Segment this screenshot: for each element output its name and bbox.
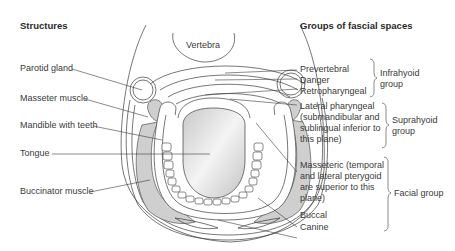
structure-mandible-with-teeth: Mandible with teeth [20, 120, 98, 131]
fascial-spaces-heading: Groups of fascial spaces [300, 20, 412, 31]
parotid-gland-left [130, 77, 156, 103]
structure-parotid-gland: Parotid gland [20, 63, 73, 74]
structure-masseter-muscle: Masseter muscle [20, 93, 88, 104]
structure-tongue: Tongue [20, 148, 50, 159]
space-buccal: Buccal [300, 210, 327, 221]
space-canine: Canine [300, 222, 329, 233]
structure-buccinator-muscle: Buccinator muscle [20, 186, 94, 197]
space-retropharyngeal: Retropharyngeal [300, 86, 367, 97]
space-danger: Danger [300, 75, 330, 86]
group-infrahyoid: Infrahyoid group [380, 68, 420, 90]
tongue [183, 108, 245, 198]
space-prevertebral: Prevertebral [300, 64, 349, 75]
group-facial: Facial group [394, 188, 444, 199]
space-lateral-pharyngeal: Lateral pharyngeal (submandibular and su… [300, 101, 381, 145]
structures-heading: Structures [20, 20, 68, 31]
space-masseteric: Masseteric (temporal and lateral pterygo… [300, 160, 384, 204]
bracket-infrahyoid [370, 59, 377, 97]
bracket-suprahyoid [382, 103, 389, 148]
bracket-facial [384, 157, 391, 231]
group-suprahyoid: Suprahyoid group [392, 115, 438, 137]
vertebra-label: Vertebra [186, 40, 220, 51]
